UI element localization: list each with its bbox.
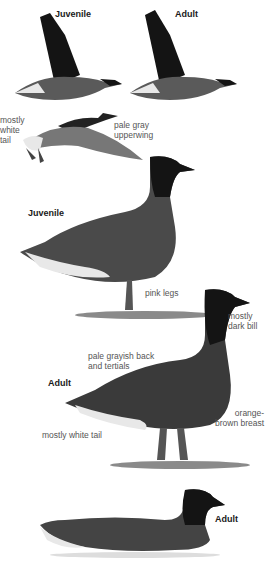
age-label-adult-standing: Adult [48,378,71,388]
age-label-juvenile-standing: Juvenile [28,208,64,218]
label-mostly-white-tail-flight: mostly white tail [0,115,25,145]
label-orange-brown-breast: orange- brown breast [215,408,264,428]
age-label-adult-flight: Adult [175,9,198,19]
goose-flight-juvenile-illustration [10,5,125,100]
label-pale-grayish-back: pale grayish back and tertials [88,351,154,371]
label-pale-gray-upperwing: pale gray upperwing [114,120,153,140]
field-guide-plate: Juvenile Adult mostly white tail pale gr… [0,0,269,565]
goose-swimming-adult-illustration [35,485,225,560]
label-mostly-white-tail-standing: mostly white tail [42,430,102,440]
goose-flight-adult-illustration [125,5,240,100]
goose-standing-adult-illustration [65,285,250,475]
label-mostly-dark-bill: mostly dark bill [228,311,257,331]
age-label-adult-swimming: Adult [215,514,238,524]
age-label-juvenile-flight: Juvenile [55,9,91,19]
